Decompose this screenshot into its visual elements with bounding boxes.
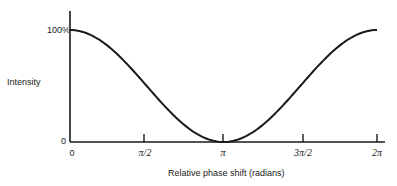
x-tick-label-3pi-half: 3π/2 [294,147,312,158]
x-tick-label-pi-half: π/2 [139,147,152,158]
intensity-curve [70,30,377,142]
x-tick-label-2pi: 2π [372,147,382,158]
y-tick-label-100: 100% [47,25,70,35]
y-tick-label-0: 0 [61,136,66,146]
x-axis-label: Relative phase shift (radians) [168,168,285,178]
x-tick-label-pi: π [220,147,225,158]
x-tick-label-0: 0 [69,148,74,158]
y-axis-label: Intensity [7,77,41,87]
